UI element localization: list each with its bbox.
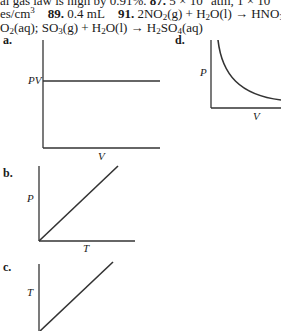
graph-d-curve: [218, 40, 281, 100]
graph-a-label: a.: [3, 33, 12, 48]
graph-b-ylabel: P: [27, 192, 34, 204]
graph-d-label: d.: [175, 33, 185, 48]
graph-d-xlabel: V: [253, 110, 260, 122]
graphs-svg: [0, 0, 281, 331]
graph-a-xlabel: V: [98, 150, 105, 162]
graph-c-ylabel: T: [27, 286, 33, 298]
graph-b-label: b.: [3, 166, 13, 181]
graph-b-line: [39, 166, 118, 241]
graph-d-ylabel: P: [200, 66, 207, 78]
graph-c-label: c.: [3, 260, 11, 275]
graph-b-xlabel: T: [83, 242, 89, 254]
graph-c-line: [40, 262, 113, 331]
graph-a-ylabel: PV: [28, 74, 41, 86]
